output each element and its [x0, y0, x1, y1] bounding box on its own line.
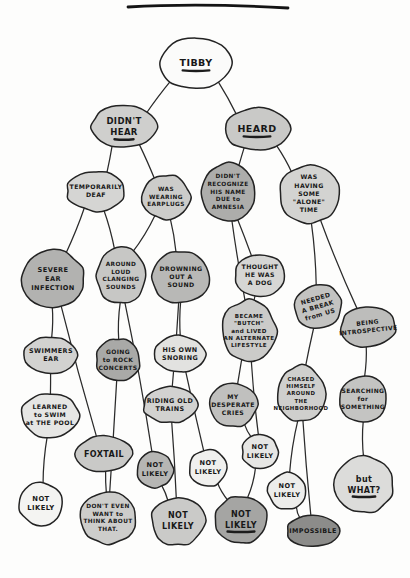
tree-node[interactable]: WASHAVINGSOME"ALONE"TIME: [280, 165, 339, 224]
tree-node[interactable]: HEARD: [226, 107, 291, 150]
tree-node[interactable]: DIDN'THEAR: [91, 106, 158, 148]
tree-node[interactable]: NOTLIKELY: [242, 434, 278, 468]
tree-node[interactable]: NOTLIKELY: [152, 498, 207, 545]
tree-node[interactable]: MYDESPERATECRIES: [210, 383, 259, 426]
tree-edge: [172, 422, 177, 498]
node-blob: [21, 249, 83, 307]
tree-edge: [218, 81, 237, 114]
tree-edge: [118, 303, 120, 340]
tree-edge: [66, 208, 85, 254]
tree-node[interactable]: TEMPORARILYDEAF: [67, 172, 124, 212]
node-blob: [137, 452, 174, 489]
tree-edge: [217, 482, 228, 500]
node-blob: [21, 394, 79, 438]
node-blob: [242, 434, 278, 468]
tree-edge: [244, 423, 252, 438]
node-blob: [280, 165, 339, 224]
node-blob: [67, 172, 124, 212]
node-blob: [267, 472, 305, 509]
tree-node[interactable]: NOTLIKELY: [137, 452, 174, 489]
label-underline: [228, 532, 255, 533]
label-underline: [353, 497, 375, 498]
node-blob: [215, 497, 267, 543]
tree-edge: [290, 420, 298, 474]
tree-edge: [311, 221, 316, 286]
tree-node[interactable]: WASWEARINGEARPLUGS: [142, 175, 192, 220]
tree-edge: [104, 209, 115, 250]
node-blob: [152, 498, 207, 545]
tree-edge: [107, 145, 113, 173]
tree-node[interactable]: DON'T EVENWANT toTHINK ABOUTTHAT.: [80, 492, 135, 545]
diagram-canvas: TIBBYDIDN'THEARHEARDTEMPORARILYDEAFWASWE…: [0, 0, 410, 578]
node-blob: [338, 304, 397, 349]
tree-node[interactable]: SWIMMERSEAR: [24, 337, 78, 373]
tree-node[interactable]: CHASEDHIMSELFAROUNDTHENEIGHBORHOOD: [274, 364, 329, 421]
tree-node[interactable]: TIBBY: [160, 38, 232, 88]
tree-edge: [43, 436, 47, 484]
node-blob: [160, 38, 232, 88]
tree-node[interactable]: BECAME"BUTCH"and LIVEDAN ALTERNATELIFEST…: [223, 299, 278, 362]
node-blob: [226, 107, 291, 150]
node-blob: [24, 337, 78, 373]
node-blob: [80, 492, 135, 545]
node-blob: [19, 482, 62, 526]
label-underline: [114, 139, 133, 140]
tree-node[interactable]: THOUGHTHE WASA DOG: [236, 255, 285, 296]
tree-edge: [180, 302, 181, 337]
tree-edge: [276, 145, 292, 173]
node-blob: [75, 435, 133, 471]
node-blob: [223, 299, 278, 362]
tree-edge: [52, 307, 53, 338]
node-blob: [144, 386, 199, 422]
tree-edge: [305, 328, 314, 368]
tree-node[interactable]: DIDN'TRECOGNIZEHIS NAMEDUE toAMNESIA: [201, 162, 255, 221]
tree-node[interactable]: NOTLIKELY: [19, 482, 62, 526]
tree-node[interactable]: IMPOSSIBLE: [288, 515, 340, 546]
tree-edge: [139, 144, 154, 179]
tree-node[interactable]: RIDING OLDTRAINS: [144, 386, 199, 422]
node-blob: [236, 255, 285, 296]
node-blob: [340, 376, 386, 422]
node-blob: [96, 247, 146, 303]
node-blob: [97, 339, 140, 381]
label-underline: [183, 70, 210, 71]
tree-edge: [237, 218, 252, 257]
tree-edge: [247, 468, 255, 498]
tree-edge: [132, 215, 155, 253]
node-blob: [152, 252, 210, 303]
node-blob: [154, 335, 206, 372]
tree-node[interactable]: NEEDEDA BREAKfrom US: [290, 279, 347, 333]
tree-node[interactable]: HIS OWNSNORING: [154, 335, 206, 372]
tree-node[interactable]: GOINGto ROCKCONCERTS: [97, 339, 140, 381]
tree-node[interactable]: SEARCHINGforSOMETHING: [340, 376, 386, 422]
node-blob: [201, 162, 255, 221]
tree-edge: [365, 346, 367, 377]
decision-tree-svg: TIBBYDIDN'THEARHEARDTEMPORARILYDEAFWASWE…: [0, 0, 410, 578]
node-blob: [290, 279, 347, 333]
tree-edge: [303, 421, 311, 516]
tree-node[interactable]: NOTLIKELY: [215, 497, 267, 543]
tree-node[interactable]: NOTLIKELY: [190, 450, 227, 487]
tree-node[interactable]: AROUNDLOUDCLANGINGSOUNDS: [96, 247, 146, 303]
tree-node[interactable]: SEVEREEARINFECTION: [21, 249, 83, 307]
tree-node[interactable]: BEINGINTROSPECTIVE: [337, 304, 399, 350]
tree-edge: [106, 471, 107, 493]
tree-node[interactable]: DROWNINGOUT ASOUND: [152, 252, 210, 303]
node-blob: [288, 515, 340, 546]
node-blob: [278, 364, 326, 421]
tree-node[interactable]: butWHAT?: [334, 456, 393, 513]
tree-edge: [146, 79, 172, 113]
node-blob: [190, 450, 227, 487]
tree-edge: [170, 218, 176, 253]
tree-node[interactable]: FOXTAIL: [75, 435, 133, 471]
title-rule: [128, 5, 288, 8]
tree-edge: [362, 421, 363, 459]
label-underline: [244, 136, 271, 137]
tree-node[interactable]: NOTLIKELY: [267, 472, 305, 509]
tree-edge: [238, 147, 244, 167]
node-layer: TIBBYDIDN'THEARHEARDTEMPORARILYDEAFWASWE…: [19, 38, 399, 546]
node-blob: [142, 175, 192, 220]
node-blob: [334, 456, 393, 513]
tree-node[interactable]: LEARNEDto SWIMat THE POOL: [21, 394, 79, 438]
node-blob: [210, 383, 259, 426]
